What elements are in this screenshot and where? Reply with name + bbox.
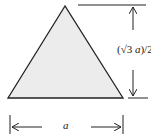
triangle xyxy=(8,6,123,98)
base-label: a xyxy=(63,119,69,131)
triangle-diagram xyxy=(0,0,151,139)
height-label-prefix: (√3 xyxy=(117,43,135,55)
height-label-suffix: )/2 xyxy=(140,43,151,55)
height-label: (√3 a)/2 xyxy=(117,43,151,55)
